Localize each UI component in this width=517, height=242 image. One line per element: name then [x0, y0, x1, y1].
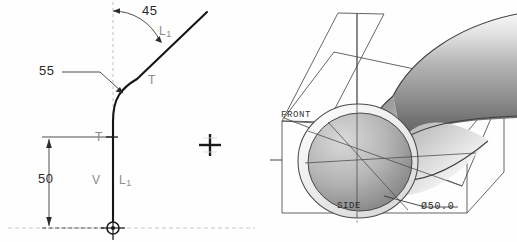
bend-radius-leader-slant [100, 72, 121, 91]
sketch-centerline-path[interactable] [113, 12, 207, 228]
equal-length-symbol-lower[interactable]: L1 [119, 174, 131, 188]
length-arrow-top [46, 139, 52, 148]
bore-diameter-dimension-value[interactable]: Ø50.0 [421, 202, 455, 212]
length-arrow-bottom [46, 217, 52, 226]
pipe-upper-barrel[interactable] [393, 14, 517, 140]
tangent-symbol-upper[interactable]: T [148, 74, 156, 86]
equal-length-symbol-upper[interactable]: L1 [159, 25, 171, 39]
angle-dimension-value[interactable]: 45 [142, 4, 157, 17]
model-geometry [262, 0, 517, 242]
equal-length-upper-subscript: 1 [166, 29, 171, 39]
angle-arrow-start [113, 8, 120, 14]
vertical-constraint-symbol[interactable]: V [92, 174, 101, 186]
vertical-length-dimension-value[interactable]: 50 [38, 172, 53, 185]
bend-radius-dimension-value[interactable]: 55 [39, 64, 54, 77]
sketch-view-panel[interactable]: 45 L1 55 T T 50 V L1 [0, 0, 262, 242]
model-view-panel[interactable]: FRONT SIDE Ø50.0 [262, 0, 517, 242]
equal-length-lower-subscript: 1 [126, 178, 131, 188]
side-plane-label[interactable]: SIDE [337, 202, 361, 211]
cad-canvas[interactable]: 45 L1 55 T T 50 V L1 [0, 0, 517, 242]
sketch-geometry [0, 0, 262, 242]
front-plane-label[interactable]: FRONT [281, 111, 311, 120]
tangent-symbol-lower[interactable]: T [95, 131, 103, 143]
